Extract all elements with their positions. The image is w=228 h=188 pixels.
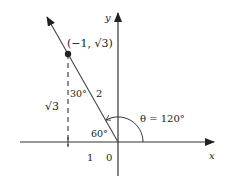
terminal-ray [47,17,118,142]
vertical-leg-label: √3 [45,100,59,113]
origin-label: 0 [106,152,112,163]
horizontal-leg-label: 1 [87,152,93,163]
top-angle-label: 30° [70,88,87,99]
reference-angle-label: 60° [91,128,108,139]
theta-arc [106,117,143,142]
y-axis-label: y [104,12,111,23]
unit-angle-diagram: y x (−1, √3) 30° 2 √3 60° θ = 120° 1 0 [0,0,228,188]
point-label: (−1, √3) [67,37,113,50]
theta-label: θ = 120° [140,113,185,124]
point-marker [65,51,71,57]
x-axis-label: x [209,150,215,161]
hypotenuse-label: 2 [96,88,102,99]
